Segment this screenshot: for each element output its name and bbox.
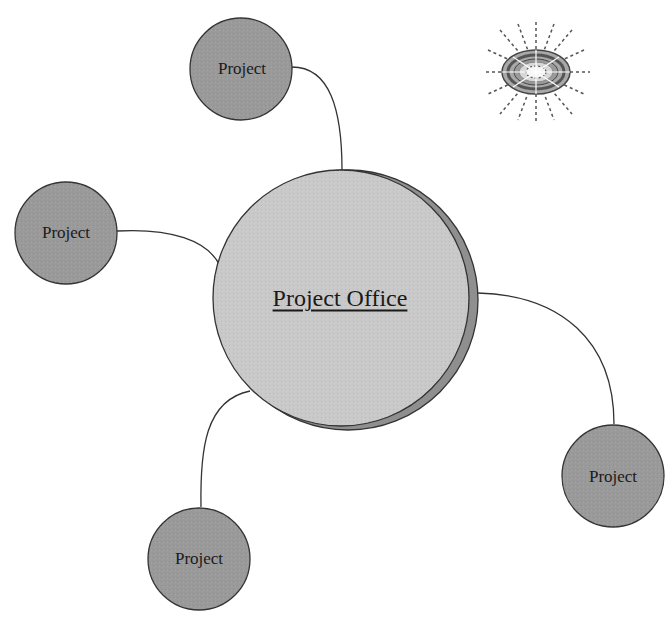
connector-bottom-left — [201, 391, 250, 507]
project-node-bottom-left-label: Project — [175, 549, 223, 569]
project-node-right-label: Project — [589, 467, 637, 487]
project-node-top-label: Project — [218, 59, 266, 79]
connector-left — [117, 231, 220, 266]
radiating-target-icon — [486, 22, 590, 122]
project-node-left-label: Project — [42, 223, 90, 243]
connector-right — [478, 293, 614, 424]
diagram-canvas — [0, 0, 671, 626]
center-node-label: Project Office — [273, 285, 408, 312]
connector-top — [292, 67, 342, 170]
